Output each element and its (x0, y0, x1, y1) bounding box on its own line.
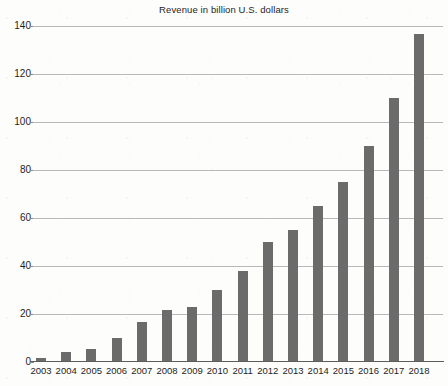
x-tick-label-2005: 2005 (78, 365, 104, 377)
x-tick-label-2008: 2008 (154, 365, 180, 377)
y-tick-label-140: 140 (3, 21, 31, 31)
bar-2013 (288, 230, 298, 362)
x-tick-label-2015: 2015 (330, 365, 356, 377)
y-tick-label-120: 120 (3, 69, 31, 79)
y-tick-label-80: 80 (3, 165, 31, 175)
bar-2017 (389, 98, 399, 362)
bars-layer (33, 26, 443, 362)
x-tick-label-2004: 2004 (53, 365, 79, 377)
x-tick-label-2017: 2017 (381, 365, 407, 377)
x-tick-label-2003: 2003 (28, 365, 54, 377)
y-axis: 020406080100120140 (0, 0, 31, 386)
x-tick-label-2012: 2012 (255, 365, 281, 377)
x-tick-label-2010: 2010 (204, 365, 230, 377)
y-tick-label-20: 20 (3, 309, 31, 319)
bar-2010 (212, 290, 222, 362)
y-tick-label-60: 60 (3, 213, 31, 223)
bar-chart: Revenue in billion U.S. dollars 02040608… (0, 0, 448, 386)
x-tick-label-2009: 2009 (179, 365, 205, 377)
y-tick-label-40: 40 (3, 261, 31, 271)
x-tick-label-2018: 2018 (406, 365, 432, 377)
x-tick-label-2006: 2006 (104, 365, 130, 377)
bar-2016 (364, 146, 374, 362)
x-tick-label-2007: 2007 (129, 365, 155, 377)
bar-2018 (414, 34, 424, 362)
x-tick-label-2016: 2016 (356, 365, 382, 377)
bar-2006 (112, 338, 122, 362)
x-tick-label-2011: 2011 (230, 365, 256, 377)
bar-2009 (187, 307, 197, 362)
chart-title: Revenue in billion U.S. dollars (0, 4, 448, 15)
bar-2008 (162, 310, 172, 362)
bar-2007 (137, 322, 147, 362)
x-axis-line (30, 361, 444, 362)
bar-2012 (263, 242, 273, 362)
y-tick-label-100: 100 (3, 117, 31, 127)
bar-2015 (338, 182, 348, 362)
x-tick-label-2014: 2014 (305, 365, 331, 377)
x-axis: 2003200420052006200720082009201020112012… (0, 365, 448, 383)
bar-2011 (238, 271, 248, 362)
bar-2014 (313, 206, 323, 362)
x-tick-label-2013: 2013 (280, 365, 306, 377)
